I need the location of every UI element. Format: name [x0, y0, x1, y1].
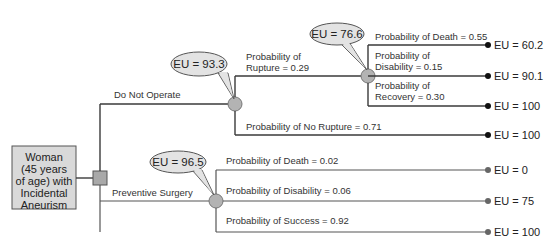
root-line-4: Incidental — [20, 187, 67, 199]
terminal-node — [485, 198, 491, 204]
root-line-1: Woman — [25, 151, 63, 163]
branch-rupture: Probability of Rupture = 0.29 EU = 76.6 … — [235, 23, 543, 112]
eu-value: EU = 93.3 — [173, 58, 224, 70]
bubble-pointer — [339, 42, 367, 70]
branch-label-1: Probability of — [246, 51, 301, 62]
decision-tree: Woman (45 years of age) with Incidental … — [0, 0, 553, 244]
branch-label-1: Probability of — [375, 50, 430, 61]
terminal-node — [485, 132, 491, 138]
branch-label: Probability of No Rupture = 0.71 — [246, 121, 381, 132]
root-line-2: (45 years — [21, 163, 67, 175]
branch-surgery-disability: Probability of Disability = 0.06 EU = 75 — [223, 185, 534, 207]
branch-no-rupture: Probability of No Rupture = 0.71 EU = 10… — [235, 121, 540, 141]
branch-label-2: Recovery = 0.30 — [375, 91, 444, 102]
decision-node — [93, 171, 107, 185]
branch-label: Probability of Disability = 0.06 — [226, 185, 351, 196]
terminal-node — [485, 42, 491, 48]
option-label: Preventive Surgery — [112, 187, 193, 198]
chance-node — [228, 97, 242, 111]
branch-label: Probability of Death = 0.55 — [375, 31, 487, 42]
root-line-3: of age) with — [16, 175, 73, 187]
branch-recovery: Probability of Recovery = 0.30 EU = 100 — [368, 80, 540, 112]
option-label: Do Not Operate — [114, 89, 181, 100]
outcome-eu: EU = 100 — [494, 100, 540, 112]
terminal-node — [485, 73, 491, 79]
root-node: Woman (45 years of age) with Incidental … — [12, 146, 76, 211]
outcome-eu: EU = 75 — [494, 195, 534, 207]
terminal-node — [485, 229, 491, 235]
chance-node — [209, 194, 223, 208]
branch-disability: Probability of Disability = 0.15 EU = 90… — [368, 50, 543, 82]
outcome-eu: EU = 100 — [494, 129, 540, 141]
branch-surgery-success: Probability of Success = 0.92 EU = 100 — [216, 215, 540, 238]
eu-bubble: EU = 76.6 — [310, 23, 367, 70]
outcome-eu: EU = 60.2 — [494, 39, 543, 51]
terminal-node — [485, 103, 491, 109]
root-line-5: Aneurism — [21, 199, 67, 211]
branch-label-2: Rupture = 0.29 — [246, 62, 309, 73]
eu-value: EU = 76.6 — [311, 28, 362, 40]
branch-label-1: Probability of — [375, 80, 430, 91]
outcome-eu: EU = 90.1 — [494, 70, 543, 82]
branch-label-2: Disability = 0.15 — [375, 61, 442, 72]
eu-value: EU = 96.5 — [152, 156, 203, 168]
outcome-eu: EU = 100 — [494, 226, 540, 238]
branch-surgery-death: Probability of Death = 0.02 EU = 0 — [216, 155, 528, 176]
outcome-eu: EU = 0 — [494, 164, 528, 176]
terminal-node — [485, 167, 491, 173]
option-do-not-operate: Do Not Operate EU = 93.3 Probability of … — [100, 23, 543, 141]
branch-label: Probability of Death = 0.02 — [226, 155, 338, 166]
branch-label: Probability of Success = 0.92 — [226, 215, 349, 226]
option-preventive-surgery: Preventive Surgery EU = 96.5 Probability… — [100, 151, 540, 238]
branch-death: Probability of Death = 0.55 EU = 60.2 — [368, 31, 543, 51]
